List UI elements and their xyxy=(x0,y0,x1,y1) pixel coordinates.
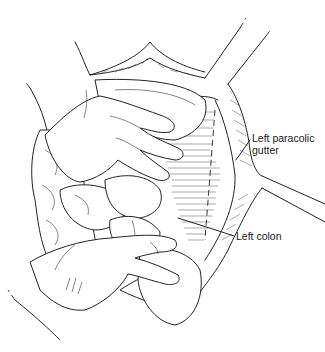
label-line-1: Left paracolic xyxy=(252,132,314,144)
label-line-2: gutter xyxy=(252,144,314,156)
label-left-colon: Left colon xyxy=(236,230,282,242)
colon-leader-line xyxy=(178,218,234,236)
label-left-paracolic-gutter: Left paracolic gutter xyxy=(252,132,314,156)
surgical-illustration xyxy=(0,0,325,352)
leader-lines xyxy=(178,140,250,236)
